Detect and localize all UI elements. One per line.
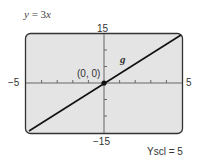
ymin-label: −15 [93,137,110,147]
yscl-label: Yscl = 5 [147,147,183,157]
ymax-label: 15 [97,24,108,34]
origin-label: (0, 0) [77,69,100,79]
xmin-label: −5 [8,78,19,88]
xmax-label: 5 [186,78,192,88]
curve-label-g: g [120,54,126,64]
origin-point [101,80,106,85]
